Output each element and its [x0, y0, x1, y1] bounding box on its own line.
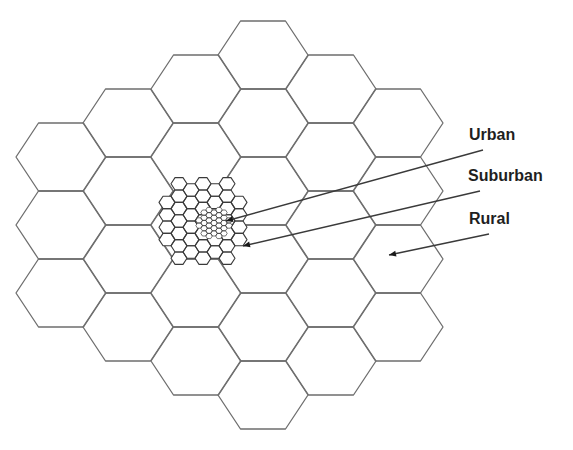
macro-cell — [151, 327, 241, 395]
label-pointer-lines — [226, 150, 489, 256]
label-rural: Rural — [469, 211, 510, 227]
macro-cell — [353, 157, 443, 225]
macro-cell — [16, 191, 106, 259]
pointer-line-suburban — [243, 191, 480, 246]
pointer-line-urban — [226, 150, 483, 221]
macro-cell — [353, 89, 443, 157]
label-urban: Urban — [469, 127, 515, 143]
urban-pico-cells — [196, 207, 232, 238]
macro-cell — [151, 259, 241, 327]
cellular-hex-diagram: Urban Suburban Rural — [0, 0, 573, 450]
macro-cell — [353, 293, 443, 361]
macro-cell — [218, 361, 308, 429]
arrowhead-icon — [389, 251, 396, 257]
macro-cell — [83, 89, 173, 157]
macro-cell — [16, 123, 106, 191]
macro-cell — [286, 123, 376, 191]
macro-cell — [218, 89, 308, 157]
label-suburban: Suburban — [468, 168, 543, 184]
macro-cell — [286, 327, 376, 395]
macro-cell — [83, 225, 173, 293]
macro-cell — [16, 259, 106, 327]
macro-cell — [286, 55, 376, 123]
macro-cell — [218, 293, 308, 361]
macro-cell — [286, 259, 376, 327]
macro-cell — [83, 293, 173, 361]
macro-cell — [218, 21, 308, 89]
macro-cell — [353, 225, 443, 293]
macro-cell — [151, 55, 241, 123]
